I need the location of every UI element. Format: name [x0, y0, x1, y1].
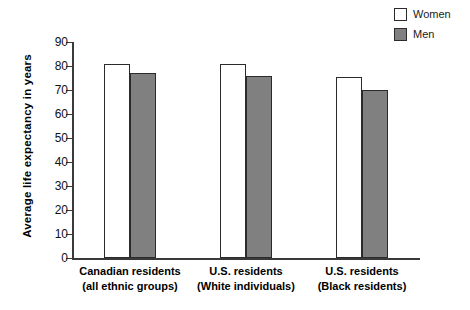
- y-tick-label: 20: [55, 203, 68, 217]
- y-tick-label: 40: [55, 155, 68, 169]
- bar-women-group-3: [336, 77, 362, 258]
- x-axis-label-line: (Black residents): [282, 279, 442, 294]
- bar-chart: Women Men Average life expectancy in yea…: [0, 0, 470, 310]
- y-tick-label: 90: [55, 35, 68, 49]
- bar-men-group-2: [246, 76, 272, 258]
- y-tick-label: 60: [55, 107, 68, 121]
- y-tick-label: 50: [55, 131, 68, 145]
- y-tick-label: 0: [61, 251, 68, 265]
- white-square-icon: [394, 8, 407, 21]
- legend-label-women: Women: [413, 8, 451, 21]
- x-axis-category-labels: Canadian residents(all ethnic groups)U.S…: [72, 264, 420, 308]
- bar-women-group-2: [220, 64, 246, 258]
- plot-area: 0102030405060708090: [72, 40, 420, 260]
- legend-item-women: Women: [394, 6, 470, 23]
- x-axis-label-line: U.S. residents: [282, 264, 442, 279]
- y-axis-title: Average life expectancy in years: [21, 26, 33, 266]
- y-tick-label: 70: [55, 83, 68, 97]
- bar-women-group-1: [104, 64, 130, 258]
- x-axis-line: [72, 258, 420, 260]
- y-tick-label: 10: [55, 227, 68, 241]
- bar-men-group-1: [130, 73, 156, 258]
- bar-men-group-3: [362, 90, 388, 258]
- x-axis-label-group-3: U.S. residents(Black residents): [282, 264, 442, 293]
- y-tick-label: 30: [55, 179, 68, 193]
- y-tick-label: 80: [55, 59, 68, 73]
- y-axis-line: [72, 42, 74, 260]
